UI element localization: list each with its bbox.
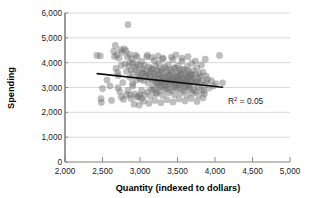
scatter-point xyxy=(116,55,123,62)
y-tick-label: 0 xyxy=(57,158,62,167)
scatter-point xyxy=(146,100,153,107)
scatter-point xyxy=(164,72,171,79)
scatter-point xyxy=(176,71,183,78)
scatter-point xyxy=(176,96,183,103)
x-tick-label: 2,000 xyxy=(55,167,76,176)
chart-canvas: 01,0002,0003,0004,0005,0006,000 2,0002,5… xyxy=(0,0,312,198)
scatter-point xyxy=(164,96,171,103)
x-tick-label: 5,000 xyxy=(280,167,301,176)
scatter-chart: 01,0002,0003,0004,0005,0006,000 2,0002,5… xyxy=(0,0,312,198)
scatter-point xyxy=(104,77,111,84)
x-tick-label: 4,500 xyxy=(242,167,263,176)
scatter-point xyxy=(134,94,141,101)
scatter-point xyxy=(140,69,147,76)
scatter-point xyxy=(194,98,201,105)
scatter-point xyxy=(144,52,151,59)
scatter-point xyxy=(194,78,201,85)
y-tick-label: 6,000 xyxy=(42,9,63,18)
scatter-point xyxy=(159,56,166,63)
x-tick-label: 3,000 xyxy=(130,167,151,176)
scatter-point xyxy=(178,66,185,73)
scatter-point xyxy=(216,52,223,59)
scatter-point xyxy=(173,52,180,59)
scatter-point xyxy=(202,56,209,63)
scatter-point xyxy=(185,53,192,60)
scatter-point xyxy=(188,95,195,102)
scatter-point xyxy=(134,54,141,61)
y-tick-label: 4,000 xyxy=(42,59,63,68)
scatter-point xyxy=(112,42,119,49)
x-tick-label: 2,500 xyxy=(92,167,113,176)
scatter-point xyxy=(97,53,104,60)
scatter-point xyxy=(184,67,191,74)
y-axis-title: Spending xyxy=(6,67,16,109)
scatter-point xyxy=(200,95,207,102)
x-tick-label: 3,500 xyxy=(167,167,188,176)
scatter-point xyxy=(99,85,106,92)
y-tick-label: 3,000 xyxy=(42,84,63,93)
y-tick-label: 1,000 xyxy=(42,133,63,142)
y-tick-label: 5,000 xyxy=(42,34,63,43)
scatter-point xyxy=(172,65,179,72)
scatter-point xyxy=(125,21,132,28)
scatter-point xyxy=(198,62,205,69)
scatter-point xyxy=(179,55,186,62)
r-squared-annotation: R2 = 0.05 xyxy=(228,96,264,106)
scatter-point xyxy=(129,80,136,87)
scatter-point xyxy=(166,66,173,73)
scatter-point xyxy=(219,79,226,86)
scatter-point xyxy=(125,87,132,94)
scatter-point xyxy=(182,98,189,105)
scatter-point xyxy=(152,97,159,104)
scatter-point xyxy=(154,66,161,73)
scatter-point xyxy=(107,83,114,90)
scatter-point xyxy=(148,65,155,72)
y-tick-label: 2,000 xyxy=(42,108,63,117)
scatter-point xyxy=(98,99,105,106)
scatter-point xyxy=(158,99,165,106)
scatter-point xyxy=(170,72,177,79)
x-axis-title: Quantity (indexed to dollars) xyxy=(116,183,241,193)
scatter-point xyxy=(119,79,126,86)
scatter-point xyxy=(158,73,165,80)
scatter-point xyxy=(170,99,177,106)
scatter-point xyxy=(160,65,167,72)
scatter-point xyxy=(108,97,115,104)
x-tick-label: 4,000 xyxy=(205,167,226,176)
scatter-point xyxy=(192,58,199,65)
